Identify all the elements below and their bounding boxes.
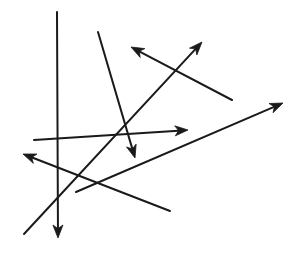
canvas-background [0, 0, 299, 260]
arrow-line-drawing [0, 0, 299, 260]
figure-canvas [0, 0, 299, 260]
segment-vertical-down-shaft [57, 12, 58, 228]
